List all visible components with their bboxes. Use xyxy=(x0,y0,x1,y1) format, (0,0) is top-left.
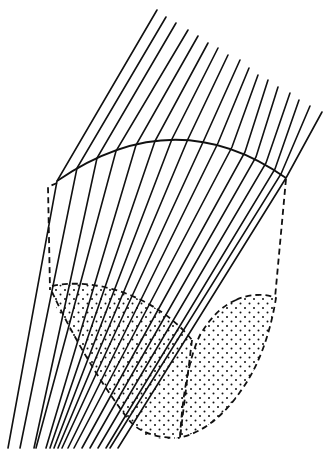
outline-right-edge xyxy=(275,179,286,298)
refraction-diagram xyxy=(0,0,332,462)
lens-surface-curve xyxy=(57,140,286,181)
